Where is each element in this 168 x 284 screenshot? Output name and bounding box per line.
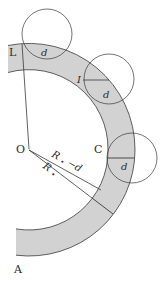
label-O: O <box>16 143 25 156</box>
label-d-I: d <box>103 89 109 100</box>
label-d-C: d <box>121 161 127 172</box>
label-C: C <box>94 143 102 156</box>
label-d-L: d <box>41 47 47 58</box>
curved-band-diagram: L d I d C d O R • −d R • A <box>0 0 168 284</box>
label-R: R • <box>39 160 59 180</box>
radius-inner-line <box>29 150 101 190</box>
label-A: A <box>13 263 23 276</box>
label-L: L <box>9 46 17 59</box>
shaded-band <box>8 43 135 256</box>
